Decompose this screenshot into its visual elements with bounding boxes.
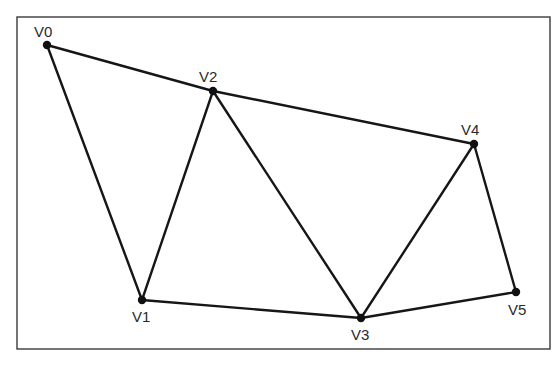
edge-v2-v4: [213, 91, 474, 144]
vertex-label-v3: V3: [351, 326, 369, 343]
edge-v4-v5: [474, 144, 516, 292]
labels-group: V0V1V2V3V4V5: [34, 23, 526, 343]
edge-v3-v4: [361, 144, 474, 318]
vertex-v2: [209, 87, 217, 95]
vertex-v5: [512, 288, 520, 296]
vertex-label-v4: V4: [461, 121, 479, 138]
edge-v1-v3: [142, 300, 361, 318]
vertex-label-v5: V5: [508, 301, 526, 318]
edge-v2-v3: [213, 91, 361, 318]
edge-v1-v2: [142, 91, 213, 300]
edge-v0-v1: [47, 45, 142, 300]
vertex-v4: [470, 140, 478, 148]
diagram-canvas: V0V1V2V3V4V5: [0, 0, 557, 368]
vertex-label-v2: V2: [199, 68, 217, 85]
edges-group: [47, 45, 516, 318]
edge-v0-v2: [47, 45, 213, 91]
edge-v3-v5: [361, 292, 516, 318]
vertex-v1: [138, 296, 146, 304]
vertex-label-v1: V1: [132, 308, 150, 325]
vertex-v3: [357, 314, 365, 322]
vertex-v0: [43, 41, 51, 49]
vertex-label-v0: V0: [34, 23, 52, 40]
